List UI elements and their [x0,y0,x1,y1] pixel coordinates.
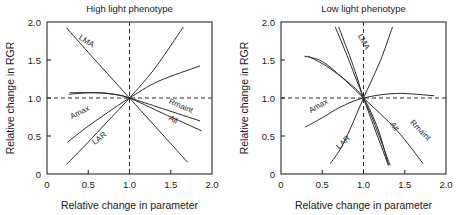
y-tick-label: 1.0 [262,93,275,104]
x-tick-label: 0 [278,179,283,190]
y-axis-label: Relative change in RGR [238,41,250,154]
y-axis-label: Relative change in RGR [4,41,16,154]
x-tick-label: 0.5 [316,179,329,190]
curve-label-LAR: LAR [91,130,109,147]
panel-title: Low light phenotype [321,3,406,14]
panel-low-light: Low light phenotype00.51.01.52.000.51.01… [234,0,468,215]
x-axis-label: Relative change in parameter [295,199,433,211]
curve-label-Amax: Amax [307,97,329,115]
plot-svg-high-light: High light phenotype00.51.01.52.000.51.0… [0,0,234,215]
y-tick-label: 0 [270,169,275,180]
y-tick-label: 2.0 [28,17,41,28]
y-tick-label: 0.5 [262,131,275,142]
y-tick-label: 1.5 [28,55,41,66]
curve-label-Rmaint: Rmaint [408,118,433,143]
x-tick-label: 0 [44,179,49,190]
y-tick-label: 1.0 [28,93,41,104]
curves-group [67,27,201,164]
curve-label-All: All [388,121,400,133]
figure-container: High light phenotype00.51.01.52.000.51.0… [0,0,468,215]
y-tick-label: 0 [36,169,41,180]
curve-label-LMA: LMA [77,33,96,50]
plot-svg-low-light: Low light phenotype00.51.01.52.000.51.01… [234,0,468,215]
x-tick-label: 1.0 [123,179,136,190]
y-tick-label: 1.5 [262,55,275,66]
panel-title: High light phenotype [86,3,173,14]
x-tick-label: 2.0 [205,179,218,190]
curve-label-LMA: LMA [356,32,372,51]
curve-label-LAR: LAR [335,134,353,152]
curve-label-All: All [167,113,179,125]
x-tick-label: 0.5 [82,179,95,190]
x-axis-label: Relative change in parameter [61,199,199,211]
x-tick-label: 1.5 [398,179,411,190]
x-tick-label: 1.0 [357,179,370,190]
x-tick-label: 2.0 [439,179,452,190]
curve-label-Amax: Amax [69,104,91,121]
x-tick-label: 1.5 [164,179,177,190]
y-tick-label: 0.5 [28,131,41,142]
y-tick-label: 2.0 [262,17,275,28]
panel-high-light: High light phenotype00.51.01.52.000.51.0… [0,0,234,215]
